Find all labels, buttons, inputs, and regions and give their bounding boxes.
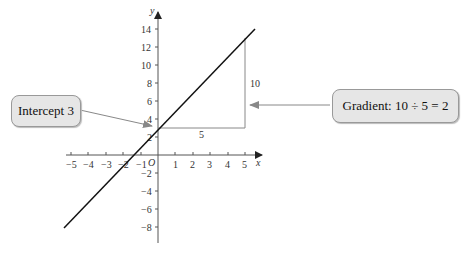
y-ticks: y 14 12 10 8 6 4 2 −2 −4 −6 −8 xyxy=(141,5,158,233)
svg-text:3: 3 xyxy=(207,159,212,170)
svg-text:6: 6 xyxy=(147,96,152,107)
svg-text:8: 8 xyxy=(147,78,152,89)
svg-text:O: O xyxy=(148,157,155,168)
rise-label: 10 xyxy=(250,78,260,89)
svg-text:10: 10 xyxy=(141,60,151,71)
svg-text:−4: −4 xyxy=(141,186,152,197)
svg-text:−3: −3 xyxy=(101,159,112,170)
svg-text:−5: −5 xyxy=(66,159,77,170)
svg-text:4: 4 xyxy=(147,114,152,125)
svg-text:1: 1 xyxy=(173,159,178,170)
graph: −5 −4 −3 −2 −1 O 1 2 3 4 5 x y 14 12 10 … xyxy=(0,0,469,256)
svg-text:−8: −8 xyxy=(141,222,152,233)
intercept-arrow xyxy=(80,110,152,126)
svg-text:−2: −2 xyxy=(141,168,152,179)
svg-text:−6: −6 xyxy=(141,204,152,215)
svg-text:4: 4 xyxy=(225,159,230,170)
svg-text:12: 12 xyxy=(141,42,151,53)
gradient-triangle xyxy=(158,38,245,128)
gradient-callout: Gradient: 10 ÷ 5 = 2 xyxy=(332,89,459,123)
svg-text:2: 2 xyxy=(190,159,195,170)
run-label: 5 xyxy=(199,129,204,140)
svg-text:x: x xyxy=(255,157,261,168)
svg-text:−2: −2 xyxy=(118,159,129,170)
svg-text:5: 5 xyxy=(242,159,247,170)
svg-text:−4: −4 xyxy=(83,159,94,170)
svg-text:y: y xyxy=(149,5,155,16)
svg-text:14: 14 xyxy=(141,24,151,35)
intercept-callout: Intercept 3 xyxy=(11,95,81,127)
